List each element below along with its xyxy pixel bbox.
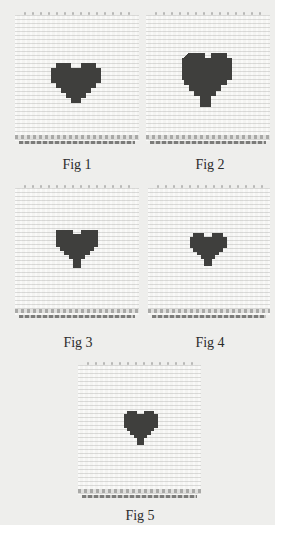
picot-edge <box>84 361 195 366</box>
heart-icon <box>51 58 101 108</box>
swatch-fig-4 <box>148 188 270 315</box>
hem-band <box>15 135 139 139</box>
caption-fig-3: Fig 3 <box>48 335 108 351</box>
hem-band <box>78 489 201 493</box>
caption-fig-2: Fig 2 <box>180 157 240 173</box>
hem-band <box>148 309 270 313</box>
bottom-edge <box>19 315 135 318</box>
caption-fig-5: Fig 5 <box>110 508 170 524</box>
picot-edge <box>154 184 264 189</box>
swatch-fig-2 <box>146 15 270 141</box>
hem-band <box>15 309 139 313</box>
bottom-edge <box>82 495 197 498</box>
swatch-fig-5 <box>78 365 201 495</box>
heart-icon <box>54 230 100 272</box>
bottom-edge <box>152 315 266 318</box>
picot-edge <box>152 11 264 16</box>
bottom-edge <box>19 141 135 144</box>
hem-band <box>146 135 270 139</box>
caption-fig-4: Fig 4 <box>180 335 240 351</box>
swatch-fig-3 <box>15 188 139 315</box>
heart-icon <box>188 233 228 270</box>
heart-icon <box>182 53 239 107</box>
picot-edge <box>21 184 133 189</box>
heart-icon <box>123 411 158 445</box>
picot-edge <box>21 11 133 16</box>
swatch-fig-1 <box>15 15 139 141</box>
figure-page: Fig 1 Fig 2 Fig 3 Fig 4 <box>0 0 275 525</box>
caption-fig-1: Fig 1 <box>47 157 107 173</box>
bottom-edge <box>150 141 266 144</box>
